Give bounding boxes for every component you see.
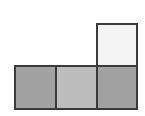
square-bottom-right [96, 65, 138, 110]
square-bottom-left [14, 65, 57, 110]
square-bottom-middle [55, 65, 98, 110]
square-top-right [96, 23, 138, 67]
